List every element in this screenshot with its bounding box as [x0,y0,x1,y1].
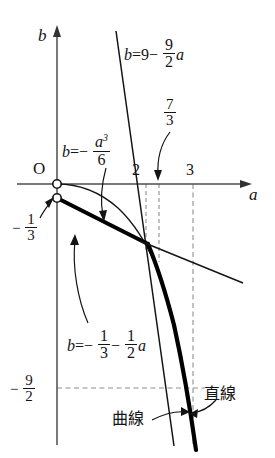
arrow-to-tangent-line [74,240,88,323]
arrow-to-seven-thirds [158,132,170,176]
tangent-line-thick [57,198,148,244]
x-axis-label: a [249,186,258,203]
fraction-9-2: 9 2 [23,373,35,405]
fraction-1-2: 1 2 [125,328,137,362]
fraction-denominator: 2 [163,54,175,70]
fraction-denominator: 2 [125,345,137,361]
arrowhead-seven-thirds [154,170,162,181]
equation-tangent-line: b=− 1 3 − 1 2 a [67,328,146,362]
equation-constant: 9 [141,46,149,63]
equation-minus-second: − [111,337,120,354]
numerator-variable: a [95,133,103,150]
equation-variable: a [138,337,146,354]
fraction-numerator: 1 [98,328,110,345]
equation-steep-line: b=9− 9 2 a [124,37,184,71]
fraction-1-3: 1 3 [98,328,110,362]
fraction-numerator: a3 [93,133,110,152]
fraction-numerator: 7 [164,97,176,113]
xtick-label-2: 2 [132,162,140,178]
ytick-label-minus-1-over-3: − 1 3 [12,212,38,244]
fraction-numerator: 9 [23,373,35,389]
fraction-9-2: 9 2 [163,37,175,71]
minus-sign: − [12,220,20,236]
fraction-1-3: 1 3 [25,212,37,244]
equation-minus: − [79,143,88,160]
xtick-label-3: 3 [186,162,194,178]
open-point-origin [53,180,61,188]
equation-lhs: b [62,143,70,160]
equation-lhs: b [124,46,132,63]
y-axis-arrowhead [53,25,61,37]
fraction-denominator: 2 [23,389,35,404]
equation-minus-first: − [84,337,93,354]
arrow-to-curve-label [152,412,186,420]
fraction-7-3: 7 3 [164,97,176,129]
arrowhead-minus-one-third [45,197,54,208]
arrowhead-tangent-line [70,234,79,245]
axes [17,31,243,445]
equation-equals: = [132,46,141,63]
fraction-denominator: 3 [164,113,176,128]
annotation-straight-line: 直線 [204,386,236,402]
fraction-a3-6: a3 6 [93,133,110,168]
y-axis-label: b [38,27,47,44]
minus-sign: − [10,381,18,397]
math-figure: b a O 2 3 7 3 − 1 3 − 9 2 b=9− 9 2 a b=− [0,0,275,458]
numerator-exponent: 3 [103,132,108,143]
fraction-denominator: 3 [25,228,37,243]
open-point-minus-one-third [53,194,61,202]
equation-lhs: b [67,337,75,354]
ytick-label-minus-9-over-2: − 9 2 [10,373,36,405]
equation-minus: − [149,46,158,63]
fraction-denominator: 3 [98,345,110,361]
fraction-numerator: 1 [25,212,37,228]
fraction-denominator: 6 [93,152,110,168]
equation-equals: = [70,143,79,160]
equation-cubic-curve: b=− a3 6 [62,133,111,168]
xtick-label-7-over-3: 7 3 [163,97,177,129]
fraction-numerator: 9 [163,37,175,54]
steep-line-9-minus-4.5a [116,31,174,446]
equation-equals: = [75,337,84,354]
fraction-numerator: 1 [125,328,137,345]
equation-variable: a [176,46,184,63]
arrow-to-cubic-curve [101,168,106,216]
annotation-curve: 曲線 [112,411,144,427]
origin-label: O [33,160,45,177]
